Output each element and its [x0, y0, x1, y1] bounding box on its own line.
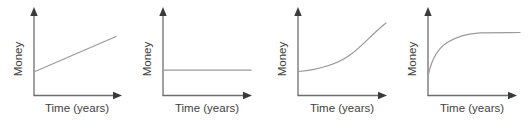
- chart-panel-logarithmic: Time (years) Money: [396, 0, 531, 121]
- y-axis-label: Money: [276, 41, 288, 76]
- y-axis: [294, 7, 301, 96]
- x-axis: [427, 92, 517, 99]
- y-axis: [424, 7, 431, 96]
- data-series-logarithmic: [429, 33, 521, 75]
- chart-panel-constant: Time (years) Money: [130, 0, 263, 121]
- y-axis-label: Money: [406, 41, 418, 76]
- figure-strip: Time (years) Money Time (years) Money: [0, 0, 531, 121]
- data-series-linear: [35, 37, 116, 72]
- x-axis-label: Time (years): [175, 102, 239, 114]
- x-axis: [297, 92, 387, 99]
- x-axis-label: Time (years): [310, 102, 374, 114]
- x-axis-label: Time (years): [440, 102, 504, 114]
- y-axis-label: Money: [141, 41, 153, 76]
- data-series-exponential: [299, 23, 387, 72]
- y-axis: [30, 7, 37, 96]
- y-axis-label: Money: [12, 41, 24, 76]
- chart-panel-exponential: Time (years) Money: [262, 0, 398, 121]
- x-axis: [33, 92, 122, 99]
- x-axis: [162, 92, 252, 99]
- x-axis-label: Time (years): [45, 102, 109, 114]
- chart-panel-linear: Time (years) Money: [0, 0, 133, 121]
- y-axis: [159, 7, 166, 96]
